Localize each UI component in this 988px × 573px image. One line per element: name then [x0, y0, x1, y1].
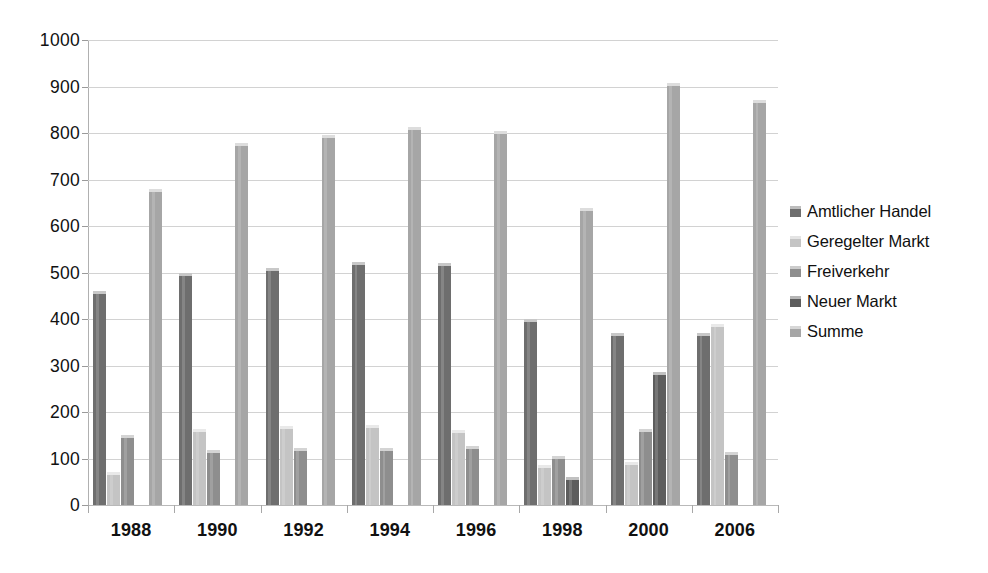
bar-slot — [93, 40, 107, 505]
bar[interactable] — [725, 452, 738, 505]
x-axis-tick — [692, 505, 693, 513]
x-axis-tick — [433, 505, 434, 513]
legend-swatch-icon — [790, 296, 801, 307]
bar[interactable] — [266, 268, 279, 505]
bar-group — [261, 40, 347, 505]
bar[interactable] — [179, 273, 192, 506]
bar-sheen — [641, 432, 644, 505]
bar-slot — [308, 40, 322, 505]
bar-sheen — [613, 336, 616, 505]
bar-sheen — [583, 211, 586, 505]
bar-chart: 10009008007006005004003002001000 1988199… — [0, 0, 988, 573]
bar[interactable] — [193, 429, 206, 505]
bar-sheen — [527, 322, 530, 505]
bar-slot — [280, 40, 294, 505]
legend-label: Summe — [807, 322, 863, 341]
bar-sheen — [324, 138, 327, 505]
x-axis-label: 1988 — [88, 520, 174, 554]
legend-label: Amtlicher Handel — [807, 202, 931, 221]
bar[interactable] — [149, 189, 162, 505]
bar[interactable] — [235, 143, 248, 505]
bar-sheen — [268, 271, 271, 505]
bar-slot — [538, 40, 552, 505]
bar-group — [692, 40, 778, 505]
bar[interactable] — [639, 429, 652, 505]
bar-sheen — [756, 103, 759, 505]
bar-slot — [394, 40, 408, 505]
x-axis-tick — [261, 505, 262, 513]
bar[interactable] — [366, 425, 379, 505]
legend-swatch-icon — [790, 326, 801, 337]
y-axis-ticks — [0, 40, 90, 506]
bar-sheen — [296, 451, 299, 505]
x-axis-label: 1994 — [347, 520, 433, 554]
bar[interactable] — [697, 333, 710, 505]
bar[interactable] — [207, 450, 220, 505]
bar-sheen — [355, 265, 358, 505]
bar[interactable] — [352, 262, 365, 505]
bar-sheen — [555, 459, 558, 505]
bar[interactable] — [294, 448, 307, 505]
bar-slot — [667, 40, 681, 505]
bar[interactable] — [625, 462, 638, 505]
legend-item[interactable]: Neuer Markt — [790, 286, 986, 316]
bar-sheen — [497, 134, 500, 505]
legend-item[interactable]: Freiverkehr — [790, 256, 986, 286]
bar-sheen — [182, 276, 185, 506]
bar[interactable] — [711, 324, 724, 505]
bar[interactable] — [494, 131, 507, 505]
x-axis-tick-labels: 19881990199219941996199820002006 — [88, 520, 778, 554]
bar-sheen — [541, 468, 544, 505]
bar[interactable] — [753, 100, 766, 505]
legend-swatch-cap — [790, 326, 801, 329]
bar-sheen — [282, 429, 285, 505]
bar-slot — [653, 40, 667, 505]
bar-slot — [193, 40, 207, 505]
x-axis-label: 1992 — [261, 520, 347, 554]
bar[interactable] — [667, 83, 680, 505]
x-axis-label: 2000 — [606, 520, 692, 554]
bar[interactable] — [107, 472, 120, 505]
bar-sheen — [210, 453, 213, 505]
legend-item[interactable]: Summe — [790, 316, 986, 346]
legend-swatch-icon — [790, 266, 801, 277]
bar-slot — [121, 40, 135, 505]
bar[interactable] — [452, 430, 465, 505]
bar-slot — [494, 40, 508, 505]
bar-sheen — [669, 86, 672, 505]
x-axis-tick — [174, 505, 175, 513]
bar-group — [88, 40, 174, 505]
bar[interactable] — [538, 465, 551, 505]
bar-sheen — [124, 438, 127, 505]
bar-group — [174, 40, 260, 505]
bar[interactable] — [408, 127, 421, 505]
bar[interactable] — [524, 319, 537, 505]
legend-swatch-cap — [790, 206, 801, 209]
bar[interactable] — [611, 333, 624, 505]
x-axis-label: 1996 — [433, 520, 519, 554]
bar[interactable] — [653, 372, 666, 505]
bar-groups — [88, 40, 778, 505]
bar[interactable] — [566, 477, 579, 505]
bar[interactable] — [580, 208, 593, 505]
x-axis-label: 1998 — [519, 520, 605, 554]
bar-slot — [408, 40, 422, 505]
bar-sheen — [714, 327, 717, 505]
bar-slot — [107, 40, 121, 505]
bar[interactable] — [380, 448, 393, 505]
bar[interactable] — [466, 446, 479, 505]
x-axis-tick — [606, 505, 607, 513]
bar[interactable] — [93, 291, 106, 505]
bar[interactable] — [121, 435, 134, 505]
bar-sheen — [152, 192, 155, 505]
bar[interactable] — [280, 426, 293, 505]
legend-label: Freiverkehr — [807, 262, 889, 281]
bar-slot — [697, 40, 711, 505]
bar[interactable] — [552, 456, 565, 505]
legend-item[interactable]: Amtlicher Handel — [790, 196, 986, 226]
bar[interactable] — [438, 263, 451, 505]
legend-item[interactable]: Geregelter Markt — [790, 226, 986, 256]
bar-group — [519, 40, 605, 505]
bar[interactable] — [322, 135, 335, 505]
bar-slot — [179, 40, 193, 505]
